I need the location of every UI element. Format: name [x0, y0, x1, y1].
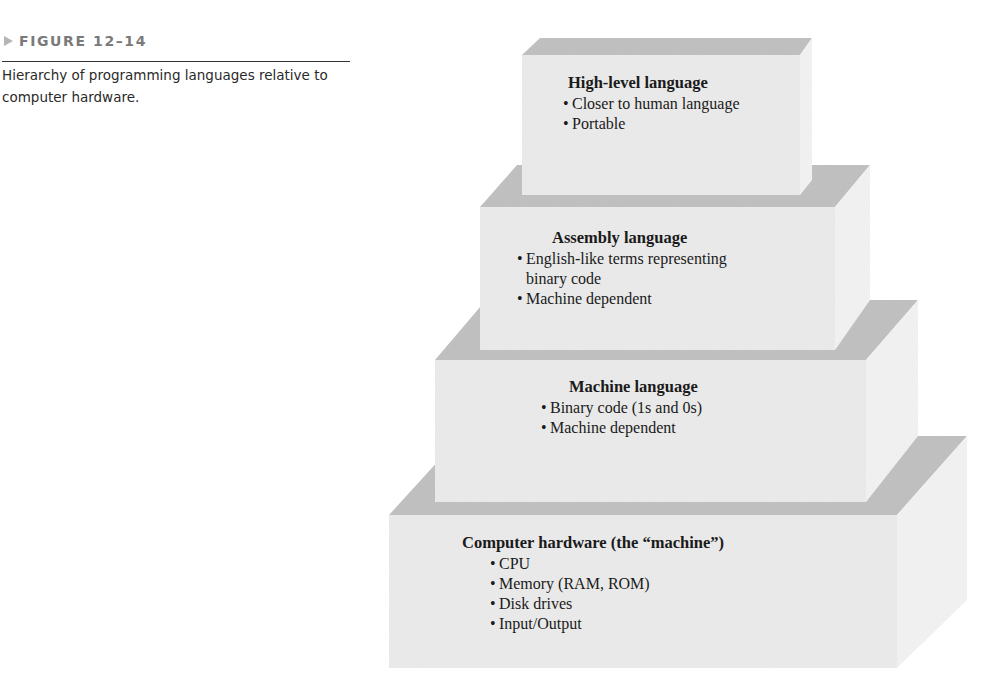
tier-highlevel-top-face — [522, 38, 812, 55]
tier-item: •English-like terms representing — [517, 249, 727, 269]
tier-item: •Disk drives — [490, 594, 724, 614]
tier-title: High-level language — [566, 72, 740, 94]
bullet-icon: • — [563, 94, 572, 114]
bullet-icon: • — [517, 249, 526, 269]
tier-hardware-text: Computer hardware (the “machine”) •CPU •… — [462, 532, 724, 634]
tier-title: Machine language — [541, 376, 702, 398]
bullet-icon: • — [517, 289, 526, 309]
bullet-icon: • — [541, 398, 550, 418]
tier-highlevel-text: High-level language •Closer to human lan… — [566, 72, 740, 134]
tier-item: •Machine dependent — [517, 289, 727, 309]
bullet-icon: • — [490, 594, 499, 614]
tier-assembly-text: Assembly language •English-like terms re… — [517, 227, 727, 309]
tier-item: •Binary code (1s and 0s) — [541, 398, 702, 418]
tier-highlevel-side-face — [800, 38, 812, 195]
tier-item: •CPU — [490, 554, 724, 574]
tier-item: •Input/Output — [490, 614, 724, 634]
tier-machine-text: Machine language •Binary code (1s and 0s… — [541, 376, 702, 438]
bullet-icon: • — [490, 614, 499, 634]
tier-item: •Portable — [563, 114, 740, 134]
bullet-icon: • — [563, 114, 572, 134]
tier-item: •Memory (RAM, ROM) — [490, 574, 724, 594]
tier-item: •Machine dependent — [541, 418, 702, 438]
tier-title: Computer hardware (the “machine”) — [462, 532, 724, 554]
tier-item: •Closer to human language — [563, 94, 740, 114]
tier-item-continuation: binary code — [517, 269, 727, 289]
bullet-icon: • — [490, 574, 499, 594]
tier-title: Assembly language — [517, 227, 727, 249]
bullet-icon: • — [541, 418, 550, 438]
bullet-icon: • — [490, 554, 499, 574]
